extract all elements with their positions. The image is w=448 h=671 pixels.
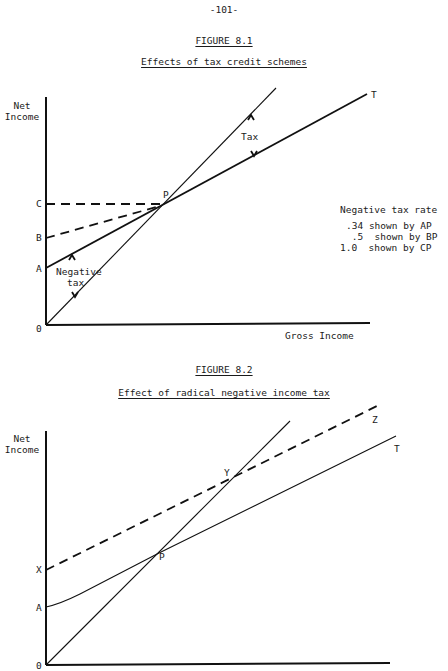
figure2-ylabel-net: Net <box>2 433 42 444</box>
figure2-point-z: Z <box>372 414 378 425</box>
figure2-point-y: Y <box>224 467 230 478</box>
figure2-x-axis <box>46 663 390 665</box>
figure2-ylabel-income: Income <box>2 444 42 455</box>
figure2-point-p: P <box>159 551 165 562</box>
figure2-apt-line <box>46 436 396 607</box>
figure2-45deg-line <box>46 421 290 665</box>
figure2-point-x: X <box>36 564 42 575</box>
figure2-point-t: T <box>394 443 400 454</box>
figure2-point-a: A <box>36 602 42 613</box>
figure2-xyz-dashed-line <box>46 404 381 570</box>
figure2-origin: 0 <box>36 660 42 671</box>
